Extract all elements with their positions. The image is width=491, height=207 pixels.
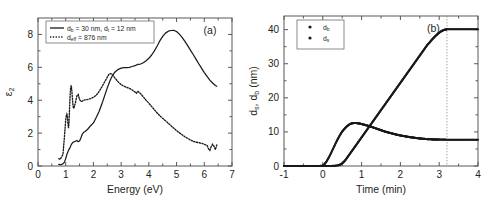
legend-marker-dot-2 [308, 36, 311, 39]
figure-container: 0123456702468Energy (eV)ε2(a)db = 30 nm,… [0, 0, 491, 207]
y-tick-label: 30 [268, 58, 280, 69]
y-axis-label: ε2 [2, 88, 15, 97]
legend-marker-dot-1 [308, 25, 311, 28]
y-tick-label: 40 [268, 24, 280, 35]
legend: dbds [297, 20, 344, 49]
y-tick-label: 0 [27, 161, 33, 172]
y-tick-label: 4 [27, 95, 33, 106]
panel-label: (b) [427, 22, 440, 34]
legend: db = 30 nm, dt = 12 nmdeff = 876 nm [46, 21, 154, 43]
x-tick-label: 6 [202, 169, 208, 180]
y-tick-label: 10 [268, 126, 280, 137]
x-tick-label: 7 [229, 169, 235, 180]
panel-a: 0123456702468Energy (eV)ε2(a)db = 30 nm,… [0, 0, 245, 207]
x-tick-label: 3 [436, 169, 442, 180]
y-tick-label: 6 [27, 62, 33, 73]
x-tick-label: 1 [359, 169, 365, 180]
x-axis-label: Time (min) [356, 183, 406, 195]
panel-b: -101234010203040Time (min)ds, db (nm)(b)… [245, 0, 490, 207]
y-tick-label: 2 [27, 128, 33, 139]
panel-b-plot: -101234010203040Time (min)ds, db (nm)(b)… [245, 0, 491, 207]
y-tick-label: 20 [268, 92, 280, 103]
y-tick-label: 0 [273, 161, 279, 172]
x-tick-label: 2 [398, 169, 404, 180]
y-tick-label: 8 [27, 29, 33, 40]
panel-label: (a) [204, 24, 217, 36]
x-tick-label: 2 [91, 169, 97, 180]
series-2-d_s [283, 122, 479, 167]
x-tick-label: -1 [280, 169, 289, 180]
x-tick-label: 3 [118, 169, 124, 180]
svg-text:ds, db (nm): ds, db (nm) [247, 66, 260, 115]
x-tick-label: 4 [146, 169, 152, 180]
x-tick-label: 5 [174, 169, 180, 180]
legend-box [297, 20, 344, 49]
series-1-solid [59, 30, 217, 164]
y-axis-label: ds, db (nm) [247, 66, 260, 115]
x-tick-label: 0 [35, 169, 41, 180]
tick-labels: 0123456702468 [27, 29, 235, 180]
x-tick-label: 4 [475, 169, 481, 180]
x-axis-label: Energy (eV) [107, 183, 163, 195]
x-tick-label: 1 [63, 169, 69, 180]
svg-text:ε2: ε2 [2, 88, 15, 97]
panel-a-plot: 0123456702468Energy (eV)ε2(a)db = 30 nm,… [0, 0, 245, 207]
series-2-dotted [59, 74, 217, 160]
x-tick-label: 0 [320, 169, 326, 180]
